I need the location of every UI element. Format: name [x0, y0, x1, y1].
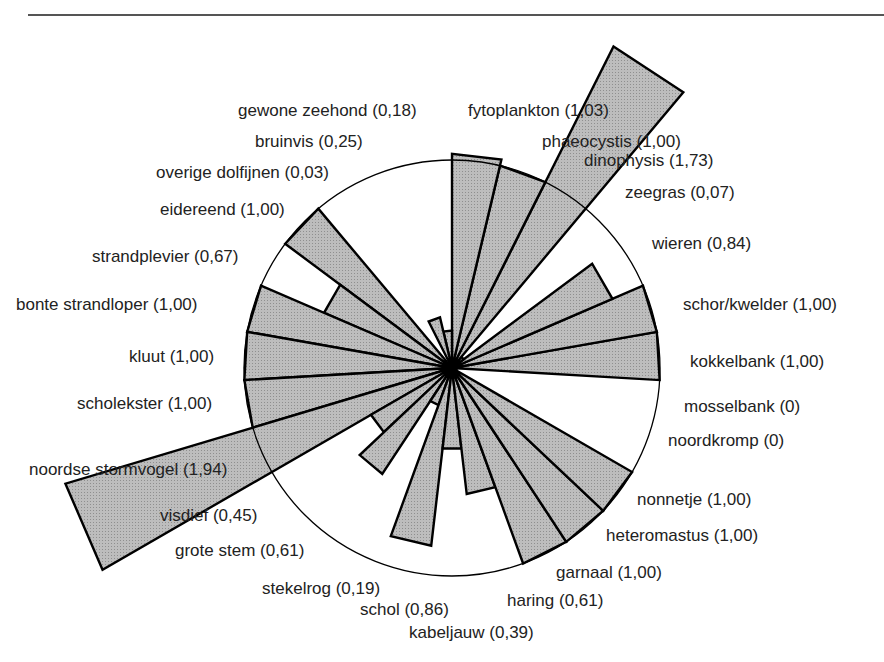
category-label: kluut (1,00) [129, 347, 214, 366]
category-label: stekelrog (0,19) [262, 579, 380, 598]
category-label: schol (0,86) [360, 600, 449, 619]
category-label: noordkromp (0) [668, 431, 784, 450]
category-label: haring (0,61) [507, 591, 603, 610]
category-label: fytoplankton (1,03) [468, 101, 609, 120]
category-label: phaeocystis (1,00) [542, 132, 681, 151]
category-label: dinophysis (1,73) [584, 151, 713, 170]
category-label: zeegras (0,07) [625, 183, 735, 202]
category-label: noordse stormvogel (1,94) [29, 460, 227, 479]
category-label: nonnetje (1,00) [637, 490, 751, 509]
category-label: schor/kwelder (1,00) [683, 295, 837, 314]
category-label: grote stem (0,61) [175, 541, 304, 560]
category-label: wieren (0,84) [651, 234, 751, 253]
category-label: garnaal (1,00) [556, 563, 662, 582]
category-label: kokkelbank (1,00) [690, 352, 824, 371]
category-label: eidereend (1,00) [160, 200, 285, 219]
category-label: overige dolfijnen (0,03) [156, 163, 329, 182]
category-label: strandplevier (0,67) [92, 247, 238, 266]
category-label: bruinvis (0,25) [255, 132, 363, 151]
category-label: mosselbank (0) [684, 397, 800, 416]
category-label: gewone zeehond (0,18) [238, 101, 417, 120]
category-label: heteromastus (1,00) [606, 526, 758, 545]
category-label: kabeljauw (0,39) [409, 623, 534, 642]
category-label: bonte strandloper (1,00) [16, 295, 197, 314]
category-label: scholekster (1,00) [77, 394, 212, 413]
polar-bar-chart: gewone zeehond (0,18)fytoplankton (1,03)… [0, 0, 884, 662]
category-label: visdief (0,45) [160, 506, 257, 525]
center-hub [446, 362, 458, 374]
